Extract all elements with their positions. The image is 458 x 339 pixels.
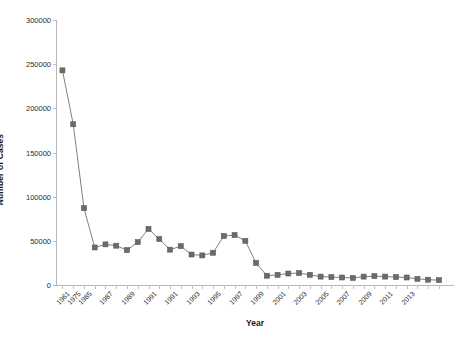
y-tick-mark <box>53 197 56 198</box>
y-tick-mark <box>53 64 56 65</box>
y-tick-label: 100000 <box>26 192 51 201</box>
data-point-marker <box>146 226 151 231</box>
x-tick-label: 2011 <box>379 290 395 306</box>
y-tick-mark <box>53 153 56 154</box>
y-tick-mark <box>53 20 56 21</box>
x-tick-label: 2007 <box>335 290 351 306</box>
x-tick-label: 1989 <box>120 290 136 306</box>
x-tick-label: 1995 <box>206 290 222 306</box>
y-tick-label: 250000 <box>26 60 51 69</box>
x-tick-label: 1993 <box>185 290 201 306</box>
data-point-marker <box>81 206 86 211</box>
data-point-marker <box>404 275 409 280</box>
x-tick-label: 2001 <box>271 290 287 306</box>
x-tick-label: 1987 <box>98 290 114 306</box>
x-tick-label: 1991 <box>163 290 179 306</box>
y-tick-mark <box>53 241 56 242</box>
data-point-marker <box>211 250 216 255</box>
y-tick-label: 150000 <box>26 148 51 157</box>
data-point-marker <box>340 275 345 280</box>
data-point-marker <box>243 238 248 243</box>
data-point-marker <box>307 272 312 277</box>
x-tick-label: 1997 <box>228 290 244 306</box>
data-point-marker <box>254 260 259 265</box>
x-tick-label: 2005 <box>314 290 330 306</box>
y-axis-tick-labels: 050000100000150000200000250000300000 <box>0 0 56 339</box>
y-tick-label: 0 <box>47 281 51 290</box>
data-series <box>56 20 454 285</box>
data-point-marker <box>114 243 119 248</box>
data-point-marker <box>221 233 226 238</box>
series-markers <box>60 68 441 283</box>
data-point-marker <box>436 278 441 283</box>
x-tick-label: 1991 <box>141 290 157 306</box>
data-point-marker <box>92 245 97 250</box>
data-point-marker <box>415 276 420 281</box>
x-axis-title: Year <box>56 318 454 328</box>
y-tick-label: 50000 <box>30 236 51 245</box>
data-point-marker <box>426 277 431 282</box>
data-point-marker <box>71 122 76 127</box>
data-point-marker <box>297 271 302 276</box>
x-tick-label: 2003 <box>292 290 308 306</box>
x-axis-tick-labels: 1961197519851987198919911991199319951997… <box>56 285 454 319</box>
y-tick-label: 200000 <box>26 104 51 113</box>
data-point-marker <box>329 275 334 280</box>
data-point-marker <box>200 253 205 258</box>
data-point-marker <box>189 252 194 257</box>
data-point-marker <box>383 274 388 279</box>
data-point-marker <box>350 275 355 280</box>
data-point-marker <box>103 242 108 247</box>
data-point-marker <box>60 68 65 73</box>
x-tick-label: 1999 <box>249 290 265 306</box>
data-point-marker <box>157 237 162 242</box>
data-point-marker <box>264 273 269 278</box>
data-point-marker <box>124 248 129 253</box>
data-point-marker <box>393 275 398 280</box>
data-point-marker <box>232 233 237 238</box>
data-point-marker <box>178 244 183 249</box>
data-point-marker <box>135 240 140 245</box>
plot-area <box>56 20 454 285</box>
data-point-marker <box>372 274 377 279</box>
data-point-marker <box>318 274 323 279</box>
data-point-marker <box>361 274 366 279</box>
x-tick-label: 2009 <box>357 290 373 306</box>
y-tick-mark <box>53 108 56 109</box>
data-point-marker <box>275 272 280 277</box>
y-tick-label: 300000 <box>26 16 51 25</box>
line-chart: Number of Cases 050000100000150000200000… <box>0 0 458 339</box>
data-point-marker <box>286 271 291 276</box>
data-point-marker <box>168 247 173 252</box>
series-line <box>62 70 438 280</box>
x-tick-label: 2013 <box>400 290 416 306</box>
